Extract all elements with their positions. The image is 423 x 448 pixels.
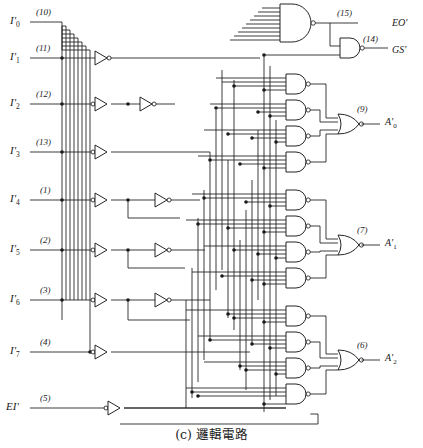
output-pin-A1: (7): [357, 226, 368, 235]
nand-matrix: [286, 74, 310, 404]
input-pin-I4: (1): [40, 186, 51, 195]
nand-input-stubs: [124, 78, 286, 408]
input-pin-I3: (13): [36, 138, 51, 147]
input-label-I6: I'6: [10, 293, 20, 307]
output-label-GS: GS': [392, 45, 406, 55]
output-pin-A2: (6): [357, 341, 368, 350]
input-pin-I5: (2): [40, 236, 51, 245]
output-pin-EO: (15): [337, 9, 352, 18]
logic-circuit-svg: .w{fill:none;stroke:#1a1a1a;stroke-width…: [0, 0, 423, 448]
input-pin-I1: (11): [36, 44, 50, 53]
input-label-I1: I'1: [10, 51, 20, 65]
input-label-I2: I'2: [10, 97, 20, 111]
input-buffers: [91, 51, 120, 415]
stage2-inverters: [111, 58, 286, 408]
nor-output-a1: [310, 200, 380, 278]
output-label-A0: A'0: [385, 117, 397, 130]
input-label-I7: I'7: [10, 345, 20, 359]
input-label-I3: I'3: [10, 145, 20, 159]
input-label-I4: I'4: [10, 193, 20, 207]
input-label-I5: I'5: [10, 243, 20, 257]
output-label-A2: A'2: [385, 353, 397, 366]
input-pin-I2: (12): [36, 90, 51, 99]
nor-output-a0: [310, 84, 380, 162]
figure-canvas: .w{fill:none;stroke:#1a1a1a;stroke-width…: [0, 0, 423, 448]
figure-caption: (c) 邏輯電路: [0, 424, 423, 443]
ei-feedback: [120, 414, 318, 424]
input-label-I0: I'0: [10, 15, 20, 29]
output-label-A1: A'1: [385, 238, 397, 251]
output-label-EO: EO': [392, 18, 407, 28]
input-pin-I6: (3): [40, 286, 51, 295]
output-pin-GS: (14): [363, 35, 378, 44]
input-label-EI: EI': [6, 401, 19, 412]
matrix-feed-bus: [186, 55, 276, 412]
input-pin-EI: (5): [40, 394, 51, 403]
nor-output-a2: [310, 316, 380, 394]
input-pin-I0: (10): [36, 8, 51, 17]
output-pin-A0: (9): [357, 105, 368, 114]
input-pin-I7: (4): [40, 338, 51, 347]
input-bus: [60, 56, 92, 354]
